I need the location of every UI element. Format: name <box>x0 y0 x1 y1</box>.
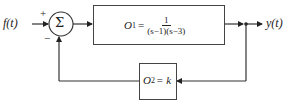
input-label: f(t) <box>3 16 18 31</box>
output-label: y(t) <box>266 16 283 31</box>
sigma-symbol: Σ <box>55 15 64 30</box>
fraction-numerator: 1 <box>162 15 171 26</box>
plus-sign: + <box>40 7 46 19</box>
forward-block-subscript: 1 <box>132 21 136 30</box>
forward-block-equation: O1 = 1 (s−1)(s−3) <box>124 12 185 38</box>
feedback-block-subscript: 2 <box>151 76 155 85</box>
forward-block-fraction: 1 (s−1)(s−3) <box>147 15 185 36</box>
forward-block-equals: = <box>138 19 144 31</box>
feedback-block-equals: = k <box>156 74 171 86</box>
forward-block-name: O <box>124 19 132 31</box>
fraction-denominator: (s−1)(s−3) <box>147 26 185 36</box>
feedback-block-equation: O2 = k <box>143 74 171 86</box>
feedback-block-name: O <box>143 74 151 86</box>
minus-sign: − <box>44 32 50 44</box>
